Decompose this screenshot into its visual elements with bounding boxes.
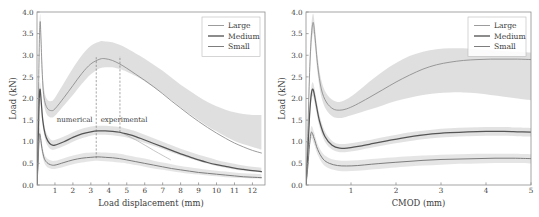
x-tick-label: 1 — [349, 186, 354, 195]
x-tick-label: 4 — [107, 186, 112, 195]
x-axis-title: Load displacement (mm) — [98, 198, 203, 208]
legend-label-small: Small — [228, 42, 250, 51]
y-tick-label: 1.5 — [22, 116, 34, 125]
figure-root: numericalexperimental1234567891011120.00… — [0, 0, 539, 217]
y-tick-label: 3.5 — [22, 29, 34, 38]
y-tick-label: 0.5 — [291, 159, 303, 168]
y-tick-label: 2.0 — [291, 94, 303, 103]
y-tick-label: 0.0 — [291, 181, 303, 190]
x-tick-label: 7 — [160, 186, 165, 195]
x-tick-label: 2 — [394, 186, 399, 195]
x-tick-label: 11 — [230, 186, 239, 195]
x-tick-label: 3 — [89, 186, 94, 195]
x-tick-label: 6 — [142, 186, 147, 195]
y-tick-label: 3.0 — [22, 51, 34, 60]
chart-panel-left: numericalexperimental1234567891011120.00… — [0, 0, 270, 217]
x-tick-label: 5 — [529, 186, 534, 195]
legend-label-medium: Medium — [228, 32, 260, 41]
x-tick-label: 9 — [196, 186, 201, 195]
legend-label-large: Large — [228, 21, 251, 30]
x-tick-label: 1 — [53, 186, 58, 195]
legend: LargeMediumSmall — [468, 17, 526, 57]
y-tick-label: 1.5 — [291, 116, 303, 125]
y-tick-label: 4.0 — [291, 8, 303, 17]
x-axis-title: CMOD (mm) — [392, 198, 446, 208]
y-tick-label: 2.5 — [22, 73, 34, 82]
chart-panel-right: 123450.00.51.01.52.02.53.03.54.0CMOD (mm… — [269, 0, 539, 217]
y-axis-title: Load (kN) — [8, 77, 18, 120]
y-tick-label: 0.5 — [22, 159, 34, 168]
y-tick-label: 1.0 — [291, 137, 303, 146]
y-tick-label: 4.0 — [22, 8, 34, 17]
legend-label-medium: Medium — [494, 32, 526, 41]
x-tick-label: 5 — [125, 186, 130, 195]
legend: LargeMediumSmall — [202, 17, 260, 57]
y-tick-label: 3.5 — [291, 29, 303, 38]
annotation-experimental: experimental — [101, 116, 149, 124]
plot-area: numericalexperimental1234567891011120.00… — [8, 8, 265, 208]
x-tick-label: 12 — [248, 186, 257, 195]
chart-svg-left: numericalexperimental1234567891011120.00… — [0, 0, 270, 217]
y-tick-label: 0.0 — [22, 181, 34, 190]
y-tick-label: 3.0 — [291, 51, 303, 60]
x-tick-label: 4 — [484, 186, 489, 195]
x-tick-label: 10 — [212, 186, 222, 195]
y-axis-title: Load (kN) — [277, 77, 287, 120]
x-tick-label: 8 — [178, 186, 183, 195]
y-tick-label: 2.5 — [291, 73, 303, 82]
plot-area: 123450.00.51.01.52.02.53.03.54.0CMOD (mm… — [277, 8, 534, 208]
x-tick-label: 2 — [71, 186, 76, 195]
annotation-numerical: numerical — [57, 116, 93, 124]
legend-label-large: Large — [494, 21, 517, 30]
legend-label-small: Small — [494, 42, 516, 51]
y-tick-label: 1.0 — [22, 137, 34, 146]
y-tick-label: 2.0 — [22, 94, 34, 103]
x-tick-label: 3 — [439, 186, 444, 195]
chart-svg-right: 123450.00.51.01.52.02.53.03.54.0CMOD (mm… — [269, 0, 539, 217]
